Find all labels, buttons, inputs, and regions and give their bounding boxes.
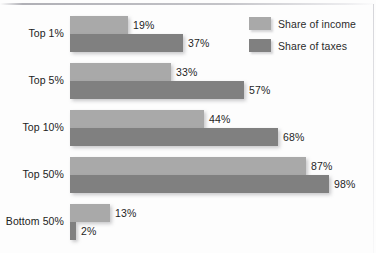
chart-frame-top-rule <box>0 3 376 5</box>
bar-slot-taxes: 37% <box>70 34 376 52</box>
bar-slot-taxes: 57% <box>70 81 376 99</box>
bar-value-income: 13% <box>115 207 136 219</box>
bar-value-taxes: 2% <box>81 225 96 237</box>
bar-income <box>70 16 128 34</box>
bar-value-income: 19% <box>133 19 154 31</box>
bar-slot-income: 44% <box>70 110 376 128</box>
bar-income <box>70 63 171 81</box>
category-label: Bottom 50% <box>0 215 64 227</box>
bar-income <box>70 157 306 175</box>
bar-slot-taxes: 68% <box>70 128 376 146</box>
bar-value-income: 33% <box>176 66 197 78</box>
bar-income <box>70 110 204 128</box>
bar-slot-income: 33% <box>70 63 376 81</box>
bar-slot-income: 13% <box>70 204 376 222</box>
category-label: Top 50% <box>0 168 64 180</box>
category-label: Top 1% <box>0 27 64 39</box>
category-label: Top 5% <box>0 74 64 86</box>
bar-value-taxes: 37% <box>188 37 209 49</box>
category-label: Top 10% <box>0 121 64 133</box>
bar-group: Top 1% 19% 37% <box>0 16 376 52</box>
bar-slot-taxes: 98% <box>70 175 376 193</box>
bar-value-taxes: 98% <box>334 178 355 190</box>
bar-group: Bottom 50% 13% 2% <box>0 204 376 240</box>
bar-income <box>70 204 110 222</box>
bar-slot-income: 87% <box>70 157 376 175</box>
bar-value-taxes: 68% <box>283 131 304 143</box>
bar-taxes <box>70 222 76 240</box>
bar-slot-income: 19% <box>70 16 376 34</box>
bar-slot-taxes: 2% <box>70 222 376 240</box>
bar-group: Top 5% 33% 57% <box>0 63 376 99</box>
bar-group: Top 50% 87% 98% <box>0 157 376 193</box>
bar-value-income: 44% <box>209 113 230 125</box>
bar-chart: Share of income Share of taxes Top 1% 19… <box>0 0 376 253</box>
bar-taxes <box>70 34 183 52</box>
bar-group: Top 10% 44% 68% <box>0 110 376 146</box>
plot-area: Top 1% 19% 37% Top 5% 33% 57% To <box>0 12 376 250</box>
bar-value-income: 87% <box>311 160 332 172</box>
bar-taxes <box>70 175 329 193</box>
bar-taxes <box>70 128 278 146</box>
bar-value-taxes: 57% <box>249 84 270 96</box>
bar-taxes <box>70 81 244 99</box>
